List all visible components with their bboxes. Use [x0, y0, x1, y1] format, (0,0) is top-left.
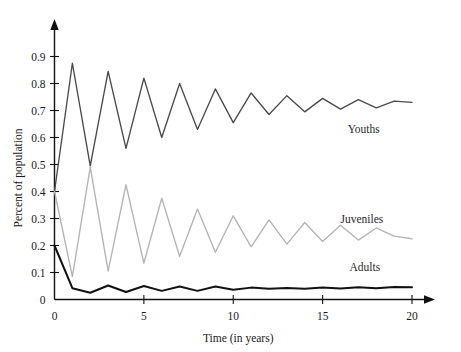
y-tick-label: 0.8	[31, 78, 46, 90]
y-tick-label: 0	[40, 294, 46, 306]
x-tick-label: 15	[317, 310, 329, 322]
x-tick-label: 0	[52, 310, 58, 322]
series-label-youths: Youths	[348, 123, 381, 135]
y-tick-label: 0.6	[31, 132, 46, 144]
x-axis-title: Time (in years)	[203, 332, 274, 345]
y-axis-arrow	[50, 19, 58, 30]
y-tick-label: 0.7	[31, 105, 46, 117]
series-label-adults: Adults	[349, 261, 380, 273]
y-tick-label: 0.5	[31, 159, 46, 171]
y-tick-label: 0.9	[31, 51, 46, 63]
x-tick-label: 5	[141, 310, 147, 322]
y-tick-label: 0.2	[31, 240, 46, 252]
y-tick-label: 0.1	[31, 267, 46, 279]
y-tick-label: 0.3	[31, 213, 46, 225]
series-label-juveniles: Juveniles	[341, 213, 384, 225]
y-axis-title: Percent of population	[12, 128, 25, 227]
x-tick-label: 10	[228, 310, 240, 322]
x-tick-label: 20	[406, 310, 418, 322]
x-axis-arrow	[424, 295, 435, 303]
chart-canvas: 00.10.20.30.40.50.60.70.80.905101520Time…	[0, 0, 461, 352]
y-tick-label: 0.4	[31, 186, 46, 198]
population-dynamics-chart: 00.10.20.30.40.50.60.70.80.905101520Time…	[0, 0, 461, 352]
